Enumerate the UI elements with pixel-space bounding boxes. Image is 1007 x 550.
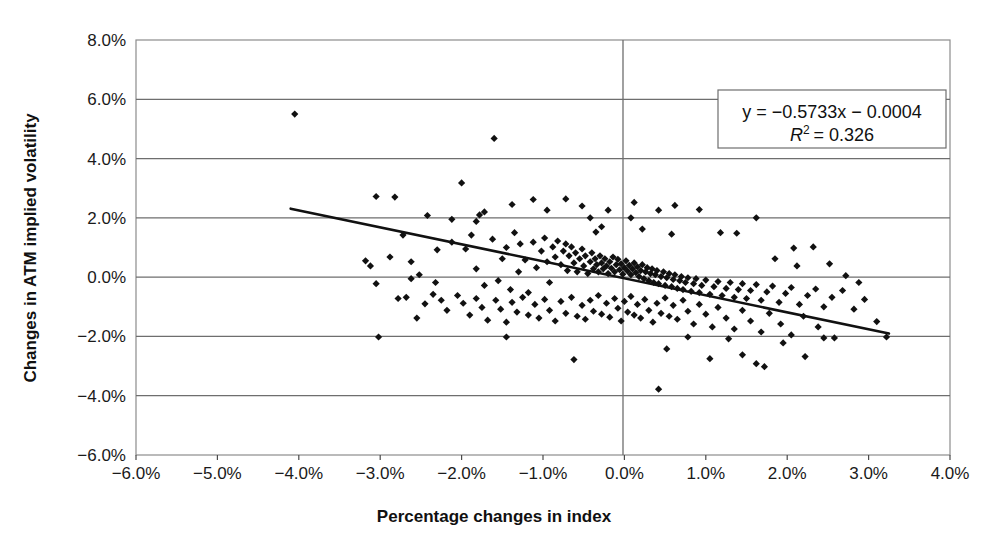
y-tick-label: 0.0% — [87, 268, 126, 287]
x-tick-label: −4.0% — [274, 464, 323, 483]
x-tick-label: −5.0% — [193, 464, 242, 483]
x-tick-label: 3.0% — [849, 464, 888, 483]
regression-equation-text: y = −0.5733x − 0.0004 — [742, 102, 922, 122]
y-tick-label: 6.0% — [87, 90, 126, 109]
x-tick-label: 4.0% — [931, 464, 970, 483]
x-tick-label: 1.0% — [686, 464, 725, 483]
scatter-chart: −6.0%−4.0%−2.0%0.0%2.0%4.0%6.0%8.0% −6.0… — [0, 0, 1007, 550]
chart-canvas: −6.0%−4.0%−2.0%0.0%2.0%4.0%6.0%8.0% −6.0… — [0, 0, 1007, 550]
r-squared-symbol: R — [790, 125, 803, 145]
y-tick-label: 2.0% — [87, 209, 126, 228]
r-squared-value: = 0.326 — [814, 125, 875, 145]
y-tick-label: 8.0% — [87, 31, 126, 50]
x-tick-label: −3.0% — [356, 464, 405, 483]
y-axis-title: Changes in ATM implied volatility — [21, 113, 40, 383]
x-tick-label: −1.0% — [519, 464, 568, 483]
y-tick-label: −6.0% — [77, 446, 126, 465]
y-tick-label: 4.0% — [87, 150, 126, 169]
y-tick-label: −4.0% — [77, 387, 126, 406]
equation-annotation: y = −0.5733x − 0.0004 R2= 0.326 — [718, 90, 946, 148]
r-squared-exponent: 2 — [803, 123, 810, 137]
y-tick-label: −2.0% — [77, 327, 126, 346]
x-tick-label: −6.0% — [112, 464, 161, 483]
x-axis-title: Percentage changes in index — [377, 507, 612, 526]
x-tick-label: 2.0% — [768, 464, 807, 483]
x-tick-label: −2.0% — [437, 464, 486, 483]
x-tick-label: 0.0% — [605, 464, 644, 483]
r-squared-text: R2= 0.326 — [790, 123, 874, 145]
